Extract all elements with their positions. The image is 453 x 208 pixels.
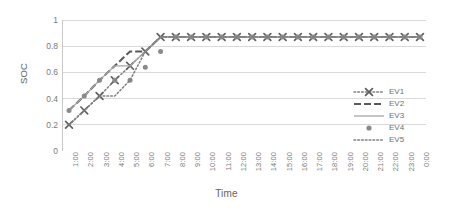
x-tick-label: 19:00: [346, 152, 355, 171]
legend-swatch-ev4: [353, 122, 385, 134]
legend-sample-graphic: [353, 86, 385, 98]
x-tick-label: 23:00: [407, 152, 416, 171]
y-axis-tick-labels: 00.20.40.60.81: [28, 20, 58, 151]
x-axis-tick-labels: 1:002:003:004:005:006:007:008:009:0010:0…: [62, 152, 425, 186]
x-tick-label: 5:00: [132, 152, 141, 167]
y-tick-label: 0.4: [32, 94, 58, 103]
x-tick-label: 12:00: [239, 152, 248, 171]
data-point-marker: [67, 108, 72, 113]
x-tick-label: 14:00: [269, 152, 278, 171]
y-tick-label: 0.2: [32, 120, 58, 129]
legend-label: EV1: [385, 86, 404, 98]
x-tick-label: 16:00: [300, 152, 309, 171]
legend-circle-marker: [366, 125, 371, 130]
x-axis-title: Time: [0, 188, 453, 199]
chart-legend: EV1EV2EV3EV4EV5: [352, 83, 422, 149]
data-point-marker: [97, 78, 102, 83]
legend-label: EV5: [385, 134, 404, 146]
x-tick-label: 0:00: [422, 152, 431, 167]
x-tick-label: 15:00: [285, 152, 294, 171]
x-tick-label: 2:00: [86, 152, 95, 167]
data-point-marker: [112, 78, 117, 83]
legend-item-ev5[interactable]: EV5: [353, 134, 421, 146]
data-point-marker: [158, 49, 163, 54]
legend-item-ev2[interactable]: EV2: [353, 98, 421, 110]
y-tick-label: 0.6: [32, 68, 58, 77]
legend-swatch-ev2: [353, 98, 385, 110]
legend-label: EV2: [385, 98, 404, 110]
legend-label: EV3: [385, 110, 404, 122]
legend-item-ev1[interactable]: EV1: [353, 86, 421, 98]
data-point-marker: [82, 93, 87, 98]
legend-swatch-ev5: [353, 134, 385, 146]
x-tick-label: 9:00: [193, 152, 202, 167]
x-tick-label: 8:00: [178, 152, 187, 167]
x-tick-label: 7:00: [163, 152, 172, 167]
x-tick-label: 21:00: [376, 152, 385, 171]
x-tick-label: 6:00: [147, 152, 156, 167]
legend-sample-graphic: [353, 110, 385, 122]
x-tick-label: 3:00: [102, 152, 111, 167]
legend-sample-graphic: [353, 122, 385, 134]
legend-label: EV4: [385, 122, 404, 134]
x-tick-label: 4:00: [117, 152, 126, 167]
x-tick-label: 13:00: [254, 152, 263, 171]
x-tick-label: 17:00: [315, 152, 324, 171]
x-tick-label: 18:00: [330, 152, 339, 171]
x-tick-label: 11:00: [224, 152, 233, 171]
x-tick-label: 20:00: [361, 152, 370, 171]
legend-item-ev4[interactable]: EV4: [353, 122, 421, 134]
legend-sample-graphic: [353, 134, 385, 146]
y-tick-label: 0: [32, 147, 58, 156]
legend-sample-graphic: [353, 98, 385, 110]
x-tick-label: 22:00: [391, 152, 400, 171]
y-tick-label: 1: [32, 16, 58, 25]
y-tick-label: 0.8: [32, 42, 58, 51]
legend-item-ev3[interactable]: EV3: [353, 110, 421, 122]
x-tick-label: 10:00: [208, 152, 217, 171]
x-tick-label: 1:00: [71, 152, 80, 167]
legend-swatch-ev3: [353, 110, 385, 122]
legend-swatch-ev1: [353, 86, 385, 98]
data-point-marker: [143, 65, 148, 70]
y-axis-title: SOC: [18, 44, 29, 104]
chart-screenshot: 00.20.40.60.81 SOC 1:002:003:004:005:006…: [0, 0, 453, 208]
